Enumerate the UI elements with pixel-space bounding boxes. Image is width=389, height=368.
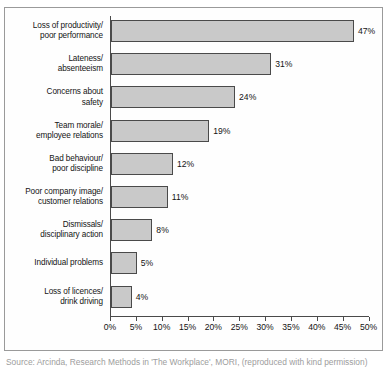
x-axis-tick-label: 40% — [308, 322, 325, 332]
bar — [111, 86, 235, 108]
bar — [111, 20, 354, 42]
x-axis-tick-label: 10% — [153, 322, 170, 332]
category-label: Bad behaviour/ poor discipline — [5, 154, 103, 174]
bar-row: Bad behaviour/ poor discipline12% — [5, 153, 382, 175]
bar-row: Individual problems5% — [5, 252, 382, 274]
x-axis-tick — [343, 317, 344, 321]
bar — [111, 186, 168, 208]
bar-value-label: 4% — [132, 292, 148, 302]
category-label: Team morale/ employee relations — [5, 120, 103, 140]
bar-chart-plot-area: Loss of productivity/ poor performance47… — [5, 8, 382, 350]
bar — [111, 219, 152, 241]
bar-row: Lateness/ absenteeism31% — [5, 53, 382, 75]
bar-value-label: 47% — [354, 26, 375, 36]
category-label: Loss of licences/ drink driving — [5, 286, 103, 306]
x-axis-tick — [136, 317, 137, 321]
bar — [111, 153, 173, 175]
x-axis-tick-label: 0% — [104, 322, 116, 332]
chart-figure-frame: Loss of productivity/ poor performance47… — [4, 7, 383, 351]
x-axis-tick — [162, 317, 163, 321]
x-axis-tick — [110, 317, 111, 321]
category-label: Loss of productivity/ poor performance — [5, 21, 103, 41]
bar-row: Loss of productivity/ poor performance47… — [5, 20, 382, 42]
bar — [111, 252, 137, 274]
x-axis-tick-label: 25% — [231, 322, 248, 332]
x-axis-tick-label: 20% — [205, 322, 222, 332]
bar-value-label: 8% — [152, 225, 168, 235]
bar-row: Loss of licences/ drink driving4% — [5, 286, 382, 308]
source-caption: Source: Arcinda, Research Methods in 'Th… — [6, 357, 386, 368]
x-axis-tick-label: 15% — [179, 322, 196, 332]
x-axis-tick-label: 30% — [256, 322, 273, 332]
bar-value-label: 5% — [137, 258, 153, 268]
x-axis-tick-label: 5% — [130, 322, 142, 332]
x-axis-tick-label: 45% — [334, 322, 351, 332]
bar — [111, 120, 209, 142]
x-axis-tick-label: 50% — [360, 322, 377, 332]
x-axis-tick — [213, 317, 214, 321]
category-label: Concerns about safety — [5, 87, 103, 107]
category-label: Individual problems — [5, 258, 103, 268]
bar-row: Concerns about safety24% — [5, 86, 382, 108]
category-label: Lateness/ absenteeism — [5, 54, 103, 74]
bar-value-label: 19% — [209, 126, 230, 136]
bar-value-label: 24% — [235, 92, 256, 102]
bar-value-label: 31% — [271, 59, 292, 69]
x-axis-tick — [239, 317, 240, 321]
bar — [111, 53, 271, 75]
bar-value-label: 11% — [168, 192, 189, 202]
x-axis-tick — [291, 317, 292, 321]
x-axis-tick — [369, 317, 370, 321]
category-label: Poor company image/ customer relations — [5, 187, 103, 207]
x-axis-tick — [188, 317, 189, 321]
x-axis-tick-label: 35% — [282, 322, 299, 332]
bar-row: Team morale/ employee relations19% — [5, 120, 382, 142]
bar-row: Poor company image/ customer relations11… — [5, 186, 382, 208]
category-label: Dismissals/ disciplinary action — [5, 220, 103, 240]
bar-value-label: 12% — [173, 159, 194, 169]
x-axis-tick — [265, 317, 266, 321]
bar-row: Dismissals/ disciplinary action8% — [5, 219, 382, 241]
bar — [111, 286, 132, 308]
x-axis-tick — [317, 317, 318, 321]
